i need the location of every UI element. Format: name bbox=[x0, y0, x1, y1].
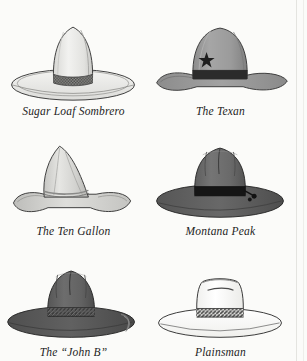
page-scan-edge-right bbox=[303, 0, 304, 361]
hat-cell-montana-peak: Montana Peak bbox=[147, 120, 294, 240]
the-ten-gallon-illustration bbox=[0, 132, 147, 224]
hat-caption-the-texan: The Texan bbox=[196, 104, 245, 118]
hat-cell-sugar-loaf-sombrero: Sugar Loaf Sombrero bbox=[0, 0, 147, 120]
the-john-b-illustration bbox=[0, 253, 147, 345]
sugar-loaf-sombrero-illustration bbox=[0, 12, 147, 104]
hat-caption-plainsman: Plainsman bbox=[195, 345, 246, 359]
hat-cell-the-ten-gallon: The Ten Gallon bbox=[0, 120, 147, 240]
hat-caption-sugar-loaf-sombrero: Sugar Loaf Sombrero bbox=[22, 104, 125, 118]
hat-caption-the-john-b: The “John B” bbox=[40, 345, 108, 359]
hat-caption-the-ten-gallon: The Ten Gallon bbox=[37, 224, 111, 238]
plainsman-illustration bbox=[147, 253, 294, 345]
hat-styles-grid: Sugar Loaf Sombrero bbox=[0, 0, 294, 361]
hat-caption-montana-peak: Montana Peak bbox=[186, 224, 256, 238]
montana-peak-illustration bbox=[147, 132, 294, 224]
hat-cell-plainsman: Plainsman bbox=[147, 240, 294, 361]
the-texan-illustration bbox=[147, 12, 294, 104]
hat-cell-the-john-b: The “John B” bbox=[0, 240, 147, 361]
hat-cell-the-texan: The Texan bbox=[147, 0, 294, 120]
page-scan-edge-left bbox=[296, 0, 297, 361]
